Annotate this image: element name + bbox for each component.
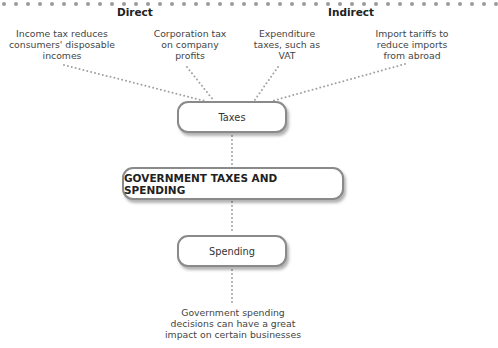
main-node-label: GOVERNMENT TAXES AND SPENDING <box>124 172 342 196</box>
spending-node: Spending <box>177 235 287 267</box>
spending-node-label: Spending <box>209 246 255 257</box>
main-node: GOVERNMENT TAXES AND SPENDING <box>122 167 344 200</box>
taxes-node: Taxes <box>177 101 287 133</box>
taxes-node-label: Taxes <box>219 112 246 123</box>
spending-note: Government spending decisions can have a… <box>164 307 302 340</box>
